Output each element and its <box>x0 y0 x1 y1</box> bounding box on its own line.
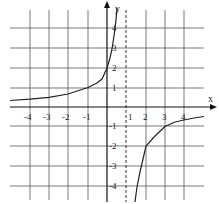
y-tick-label: 2 <box>112 63 117 73</box>
right-branch-curve <box>135 117 204 203</box>
x-tick-label: -2 <box>62 112 70 122</box>
x-tick-label: 2 <box>143 112 148 122</box>
x-tick-label: -4 <box>24 112 32 122</box>
x-axis-arrow-icon <box>210 104 217 110</box>
y-tick-label: -1 <box>109 121 117 131</box>
y-tick-label: -3 <box>109 161 117 171</box>
axes <box>10 6 212 202</box>
x-tick-label: 4 <box>181 112 186 122</box>
y-tick-label: 3 <box>112 43 117 53</box>
x-axis-label: x <box>208 93 213 104</box>
y-tick-label: 1 <box>112 83 117 93</box>
y-axis-label: y <box>115 3 120 14</box>
y-axis-arrow-icon <box>104 1 110 8</box>
y-tick-label: 4 <box>112 23 117 33</box>
left-branch-curve <box>10 8 117 101</box>
x-tick-label: 1 <box>128 112 133 122</box>
x-tick-label: -1 <box>83 112 91 122</box>
y-tick-label: -2 <box>109 141 117 151</box>
x-tick-label: 3 <box>162 112 167 122</box>
y-tick-label: -4 <box>109 181 117 191</box>
hyperbola-chart: -4 -3 -2 -1 1 2 3 4 4 3 2 1 -1 -2 -3 -4 … <box>0 0 219 204</box>
x-tick-label: -3 <box>43 112 51 122</box>
